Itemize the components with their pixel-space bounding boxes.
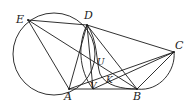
segment-EB [28,20,137,89]
label-U: U [97,57,105,67]
label-D: D [83,9,93,22]
label-V: V [90,81,98,91]
circle-EDA [13,13,95,95]
segment-DC [87,25,174,52]
label-E: E [15,13,24,26]
segment-AC [69,52,174,89]
label-B: B [132,90,141,103]
point-D [86,24,88,26]
label-K: K [105,75,114,85]
point-E [27,19,29,21]
segment-DA [69,25,87,89]
segment-EA [28,20,69,89]
segment-BC [137,52,174,89]
geometry-diagram: E D C A B U V K [0,0,192,107]
label-A: A [63,90,72,103]
label-C: C [175,39,184,52]
